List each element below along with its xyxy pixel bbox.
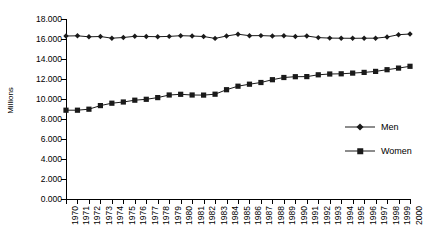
x-tick-label: 1997	[379, 206, 389, 225]
x-tick-label: 1979	[173, 206, 183, 225]
y-tick-mark	[61, 39, 66, 40]
x-tick-label: 1990	[299, 206, 309, 225]
x-tick-label: 1975	[127, 206, 137, 225]
x-tick-label: 1972	[92, 206, 102, 225]
x-tick-mark	[376, 199, 377, 204]
x-tick-label: 1995	[356, 206, 366, 225]
x-tick-label: 1989	[287, 206, 297, 225]
x-tick-label: 1984	[230, 206, 240, 225]
x-tick-mark	[387, 199, 388, 204]
y-tick-mark	[61, 179, 66, 180]
x-tick-label: 1999	[402, 206, 412, 225]
legend-item-men[interactable]: Men	[345, 115, 440, 139]
y-tick-label: 8.000	[20, 114, 62, 124]
x-tick-mark	[307, 199, 308, 204]
x-tick-mark	[204, 199, 205, 204]
x-tick-label: 1991	[310, 206, 320, 225]
y-tick-label: 16.000	[20, 34, 62, 44]
y-tick-mark	[61, 119, 66, 120]
y-tick-mark	[61, 159, 66, 160]
x-tick-label: 1976	[138, 206, 148, 225]
y-tick-mark	[61, 19, 66, 20]
x-tick-label: 1987	[264, 206, 274, 225]
x-tick-mark	[261, 199, 262, 204]
x-tick-mark	[123, 199, 124, 204]
x-tick-mark	[192, 199, 193, 204]
x-tick-label: 1996	[368, 206, 378, 225]
x-tick-mark	[89, 199, 90, 204]
x-tick-label: 1970	[70, 206, 80, 225]
x-tick-mark	[112, 199, 113, 204]
x-tick-mark	[341, 199, 342, 204]
x-tick-mark	[66, 199, 67, 204]
x-tick-label: 1993	[333, 206, 343, 225]
y-tick-label: 18.000	[20, 14, 62, 24]
y-tick-label: 2.000	[20, 174, 62, 184]
x-tick-label: 1982	[207, 206, 217, 225]
x-tick-mark	[330, 199, 331, 204]
x-tick-mark	[249, 199, 250, 204]
y-tick-label: 14.000	[20, 54, 62, 64]
x-tick-label: 1977	[150, 206, 160, 225]
x-tick-mark	[227, 199, 228, 204]
x-tick-mark	[410, 199, 411, 204]
x-tick-label: 1983	[219, 206, 229, 225]
legend-item-women[interactable]: Women	[345, 139, 440, 163]
x-tick-label: 1971	[81, 206, 91, 225]
legend-marker-diamond-icon	[345, 121, 375, 133]
x-tick-mark	[181, 199, 182, 204]
x-tick-mark	[318, 199, 319, 204]
y-tick-label: 0.000	[20, 194, 62, 204]
y-tick-mark	[61, 79, 66, 80]
x-tick-label: 1988	[276, 206, 286, 225]
legend-label-women: Women	[375, 146, 412, 156]
x-tick-mark	[169, 199, 170, 204]
y-tick-label: 10.000	[20, 94, 62, 104]
x-tick-mark	[238, 199, 239, 204]
y-tick-mark	[61, 139, 66, 140]
y-tick-mark	[61, 99, 66, 100]
chart-legend: Men Women	[345, 115, 440, 163]
y-tick-label: 12.000	[20, 74, 62, 84]
x-tick-label: 1992	[322, 206, 332, 225]
y-tick-label: 6.000	[20, 134, 62, 144]
y-tick-label: 4.000	[20, 154, 62, 164]
chart-container: Millions 0.0002.0004.0006.0008.00010.000…	[0, 0, 443, 241]
x-tick-label: 1986	[253, 206, 263, 225]
x-tick-mark	[364, 199, 365, 204]
x-tick-mark	[135, 199, 136, 204]
x-tick-mark	[215, 199, 216, 204]
x-tick-mark	[353, 199, 354, 204]
x-tick-mark	[399, 199, 400, 204]
x-tick-label: 1985	[242, 206, 252, 225]
x-tick-mark	[146, 199, 147, 204]
x-tick-mark	[284, 199, 285, 204]
y-axis-title: Millions	[0, 0, 20, 200]
y-axis-title-label: Millions	[6, 87, 15, 114]
x-tick-mark	[295, 199, 296, 204]
x-tick-mark	[158, 199, 159, 204]
x-tick-label: 1980	[184, 206, 194, 225]
x-tick-label: 1981	[196, 206, 206, 225]
x-tick-label: 2000	[414, 206, 424, 225]
plot-area	[66, 19, 411, 200]
x-tick-mark	[100, 199, 101, 204]
x-tick-mark	[77, 199, 78, 204]
legend-marker-square-icon	[345, 145, 375, 157]
x-tick-label: 1978	[161, 206, 171, 225]
legend-label-men: Men	[375, 122, 399, 132]
x-tick-label: 1998	[391, 206, 401, 225]
y-tick-mark	[61, 59, 66, 60]
x-tick-label: 1994	[345, 206, 355, 225]
x-tick-label: 1973	[104, 206, 114, 225]
x-tick-label: 1974	[115, 206, 125, 225]
x-tick-mark	[272, 199, 273, 204]
